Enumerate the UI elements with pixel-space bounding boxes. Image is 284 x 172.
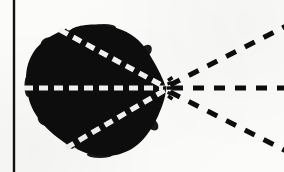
scattering-diagram: [0, 0, 284, 172]
figure-canvas: A solid black irregular blob with three …: [0, 0, 284, 172]
